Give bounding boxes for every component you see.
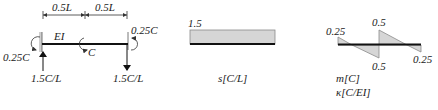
moment-right-value: 0.25: [413, 53, 433, 65]
moment-left-value: 0.25: [326, 25, 346, 37]
right-moment-icon: [131, 38, 138, 50]
moment-axis-label: m[C]: [336, 72, 360, 84]
right-moment-label: 0.25C: [131, 24, 158, 36]
dimension-right-label: 0.5L: [95, 1, 115, 13]
curvature-axis-label: κ[C/EI]: [336, 86, 371, 98]
shear-diagram: 1.5 s[C/L]: [188, 17, 275, 84]
left-support: [39, 32, 42, 52]
shear-value-label: 1.5: [188, 17, 202, 29]
moment-mid-bottom-value: 0.5: [372, 60, 386, 72]
dimension-left-label: 0.5L: [52, 1, 72, 13]
beam-structure: 0.5L 0.5L EI 0.25C C 0.25C 1.5C/L 1.5C/L: [3, 1, 158, 84]
shear-area: [190, 30, 275, 44]
stiffness-label: EI: [53, 30, 66, 42]
moment-mid-top-value: 0.5: [372, 16, 386, 28]
left-moment-label: 0.25C: [3, 51, 30, 63]
right-reaction-label: 1.5C/L: [113, 72, 143, 84]
left-moment-icon: [31, 37, 40, 50]
moment-diagram: 0.25 0.5 0.5 0.25 m[C] κ[C/EI]: [326, 16, 433, 98]
shear-axis-label: s[C/L]: [218, 72, 247, 84]
left-reaction-label: 1.5C/L: [31, 72, 61, 84]
beam-analysis-diagram: 0.5L 0.5L EI 0.25C C 0.25C 1.5C/L 1.5C/L…: [0, 0, 438, 110]
center-moment-label: C: [88, 46, 96, 58]
